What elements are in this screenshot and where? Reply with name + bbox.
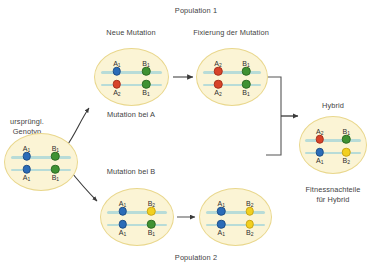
cell-mutation-b: A1 B2 A1 B1 [100, 188, 174, 246]
allele-label-A1-top: A1 [113, 60, 120, 67]
locus-A1-top [118, 207, 127, 216]
hybrid-title: Hybrid [322, 101, 344, 110]
locus-B1-top [342, 135, 351, 144]
chromosome-bottom [11, 169, 71, 171]
allele-label-B1-top: B1 [52, 145, 59, 152]
locus-B2-bottom [245, 220, 254, 229]
locus-A2-top [316, 135, 325, 144]
allele-label-A1-top: A1 [218, 200, 225, 207]
allele-label-B1-bottom: B1 [142, 89, 149, 96]
allele-label-B2-bottom: B2 [342, 157, 349, 164]
locus-A2-top [214, 67, 223, 76]
allele-label-B1-top: B1 [242, 60, 249, 67]
allele-label-B2-bottom: B2 [246, 229, 253, 236]
locus-B2-top [147, 207, 156, 216]
locus-A1-top [22, 152, 31, 161]
allele-label-B1-top: B1 [342, 128, 349, 135]
allele-label-A1-bottom: A1 [218, 229, 225, 236]
cell-original-genotype: A1 B1 A1 B1 [4, 133, 78, 191]
cell-fixation-b: A1 B2 A1 B2 [199, 188, 272, 246]
allele-label-B1-bottom: B1 [148, 229, 155, 236]
allele-label-A1-top: A1 [119, 200, 126, 207]
locus-B1-bottom [147, 220, 156, 229]
original-genotype-caption-line1: ursprüngl. [10, 117, 44, 126]
locus-B1-bottom [142, 80, 151, 89]
mutation-at-a-caption: Mutation bei A [107, 110, 155, 119]
locus-B1-top [242, 67, 251, 76]
locus-B1-top [51, 152, 60, 161]
allele-label-B1-bottom: B1 [52, 174, 59, 181]
cell-fixation: A2 B1 A2 B1 [196, 48, 268, 106]
locus-B1-bottom [242, 80, 251, 89]
locus-A1-top [113, 67, 122, 76]
chromosome-bottom [305, 152, 360, 154]
chromosome-top [101, 71, 162, 73]
allele-label-A2-top: A2 [214, 60, 221, 67]
locus-A2-bottom [113, 80, 122, 89]
chromosome-top [107, 211, 167, 213]
allele-label-A2-bottom: A2 [214, 89, 221, 96]
new-mutation-title: Neue Mutation [106, 28, 155, 37]
population-2-title: Population 2 [175, 253, 217, 262]
fitness-disadvantage-line1: Fitnessnachteile [305, 185, 360, 194]
allele-label-A1-top: A1 [23, 145, 30, 152]
chromosome-bottom [101, 84, 162, 86]
allele-label-A2-top: A2 [316, 128, 323, 135]
chromosome-bottom [206, 224, 266, 226]
locus-A2-bottom [214, 80, 223, 89]
locus-B2-bottom [342, 148, 351, 157]
chromosome-top [206, 211, 266, 213]
locus-A1-bottom [118, 220, 127, 229]
chromosome-bottom [203, 84, 262, 86]
allele-label-B1-top: B1 [142, 60, 149, 67]
allele-label-A1-bottom: A1 [119, 229, 126, 236]
chromosome-top [203, 71, 262, 73]
allele-label-A1-bottom: A1 [23, 174, 30, 181]
fitness-disadvantage-line2: für Hybrid [316, 195, 349, 204]
chromosome-top [305, 139, 360, 141]
locus-B1-bottom [51, 165, 60, 174]
locus-A1-bottom [316, 148, 325, 157]
allele-label-B1-bottom: B1 [242, 89, 249, 96]
cell-new-mutation: A1 B1 A2 B1 [94, 48, 169, 106]
allele-label-B2-top: B2 [246, 200, 253, 207]
mutation-at-b-caption: Mutation bei B [107, 167, 156, 176]
arrow-original-to-new-mutation [66, 108, 89, 147]
allele-label-A1-bottom: A1 [316, 157, 323, 164]
allele-label-B2-top: B2 [148, 200, 155, 207]
locus-B1-top [142, 67, 151, 76]
locus-A1-bottom [217, 220, 226, 229]
locus-A1-bottom [22, 165, 31, 174]
bracket-connector-to-hybrid [266, 77, 281, 155]
population-1-title: Population 1 [175, 6, 217, 15]
cell-hybrid: A2 B1 A1 B2 [299, 116, 367, 174]
chromosome-top [11, 156, 71, 158]
allele-label-A2-bottom: A2 [113, 89, 120, 96]
fixation-title: Fixierung der Mutation [193, 28, 269, 37]
locus-B2-top [245, 207, 254, 216]
locus-A1-top [217, 207, 226, 216]
chromosome-bottom [107, 224, 167, 226]
speciation-diagram: Population 1 Population 2 Neue Mutation … [0, 0, 391, 269]
